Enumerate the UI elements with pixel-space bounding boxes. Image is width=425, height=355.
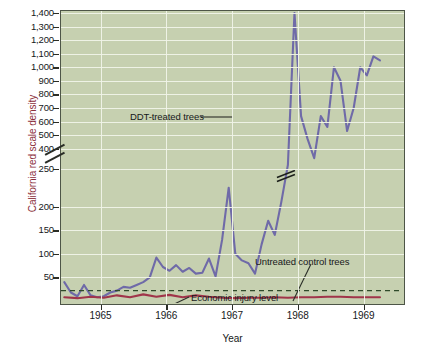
x-axis-tick-mark [101, 305, 102, 310]
x-axis-tick-label: 1968 [268, 310, 328, 321]
chart-figure: DDT-treated trees Untreated control tree… [0, 0, 425, 355]
plot-area [60, 10, 405, 305]
annotation-ddt-treated-trees: DDT-treated trees [130, 111, 204, 122]
gridline-vertical [232, 11, 233, 304]
eil-leader-line [168, 297, 189, 303]
y-axis-tick-label: 1,300 [0, 22, 54, 31]
y-axis-tick-mark [53, 108, 59, 109]
annotation-economic-injury-level: Economic injury level [191, 292, 278, 303]
y-axis-tick-mark [53, 277, 59, 278]
y-axis-tick-label: 1,400 [0, 8, 54, 17]
gridline-vertical [166, 11, 167, 304]
x-axis-tick-label: 1967 [202, 310, 262, 321]
y-axis-tick-label: 50 [0, 272, 54, 281]
gridline-vertical [364, 11, 365, 304]
x-axis-label: Year [60, 333, 405, 344]
y-axis-tick-mark [53, 13, 59, 14]
y-axis-tick-mark [53, 40, 59, 41]
x-axis-tick-mark [166, 305, 167, 310]
untreated-leader-line [293, 264, 311, 301]
y-axis-tick-mark [53, 207, 59, 208]
y-axis-tick-mark [53, 122, 59, 123]
y-axis-tick-label: 1,100 [0, 49, 54, 58]
y-axis-tick-mark [53, 135, 59, 136]
x-axis-tick-label: 1969 [334, 310, 394, 321]
x-axis-tick-mark [232, 305, 233, 310]
y-axis-tick-mark [53, 230, 59, 231]
x-axis-tick-label: 1965 [71, 310, 131, 321]
y-axis-tick-label: 1,200 [0, 35, 54, 44]
x-axis-tick-mark [364, 305, 365, 310]
x-axis-tick-label: 1966 [136, 310, 196, 321]
y-axis-tick-mark [53, 54, 59, 55]
y-axis-label: California red scale density [27, 69, 38, 239]
annotation-untreated-control-trees: Untreated control trees [255, 256, 349, 267]
y-axis-break-icon [44, 145, 68, 171]
x-axis-tick-mark [298, 305, 299, 310]
y-axis-tick-label: 100 [0, 249, 54, 258]
y-axis-tick-mark [53, 94, 59, 95]
y-axis-tick-mark [53, 81, 59, 82]
y-axis-tick-mark [53, 254, 59, 255]
y-axis-tick-mark [53, 27, 59, 28]
y-axis-tick-mark [53, 67, 59, 68]
gridline-vertical [101, 11, 102, 304]
